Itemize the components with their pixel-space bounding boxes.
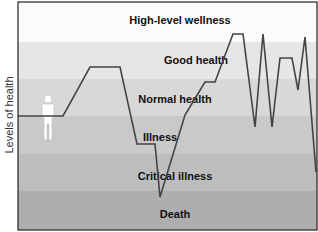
label-death: Death [160,208,191,220]
label-good-health: Good health [164,54,228,66]
label-illness: Illness [143,131,177,143]
label-critical-illness: Critical illness [138,170,213,182]
label-normal-health: Normal health [138,93,212,105]
health-levels-diagram: High-level wellness Good health Normal h… [0,0,318,232]
label-high-level-wellness: High-level wellness [129,14,230,26]
